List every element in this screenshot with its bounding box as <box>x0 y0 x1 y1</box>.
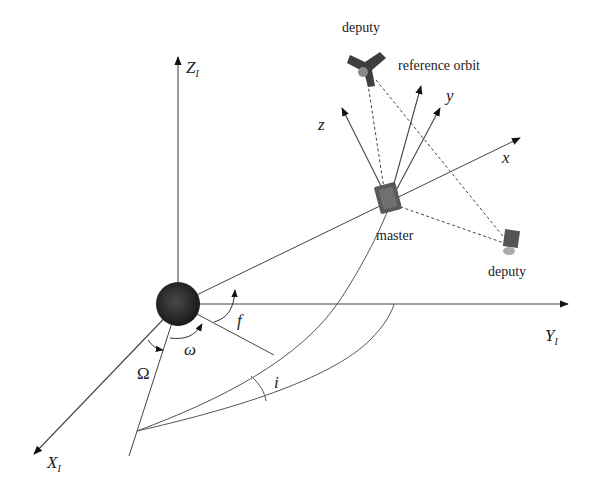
deputy-top-label: deputy <box>342 20 380 36</box>
inclination-arc <box>251 376 266 401</box>
deputy-right-satellite <box>503 229 520 255</box>
link-master-deputy-top <box>367 78 385 195</box>
inclination-label: i <box>274 373 279 393</box>
y-inertial-label: YI <box>545 326 558 347</box>
raan-label: Ω <box>137 364 150 384</box>
arg-perigee-label: ω <box>184 340 196 360</box>
z-orbit-axis <box>342 108 387 198</box>
deputy-right-label: deputy <box>488 264 526 280</box>
true-anomaly-arc <box>214 290 235 322</box>
z-orbit-label: z <box>318 115 325 135</box>
orbit-diagram <box>0 0 593 494</box>
x-orbit-label: x <box>502 148 510 168</box>
x-orbit-axis <box>178 138 520 304</box>
earth <box>156 282 200 326</box>
y-orbit-axis <box>392 108 440 198</box>
inertial-axes <box>34 57 568 454</box>
deputy-top-satellite <box>347 52 386 87</box>
master-label: master <box>376 228 413 244</box>
arg-perigee-arc <box>170 324 202 338</box>
raan-arc <box>148 340 163 350</box>
x-inertial-label: XI <box>47 453 61 474</box>
reference-orbit-label: reference orbit <box>398 58 480 74</box>
z-inertial-label: ZI <box>186 58 199 79</box>
link-deputy-top-deputy-right <box>376 80 506 240</box>
x-inertial-axis <box>34 304 178 454</box>
true-anomaly-label: f <box>237 311 242 331</box>
y-orbit-label: y <box>446 86 454 106</box>
